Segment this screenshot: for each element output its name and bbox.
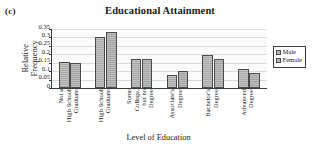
x-category-label-line: Degree <box>213 89 220 108</box>
y-tick-label: 0.25 <box>24 40 50 47</box>
bar-group <box>131 29 153 88</box>
bar-group <box>167 29 189 88</box>
bar-female[interactable] <box>142 59 153 89</box>
bar-male[interactable] <box>238 69 249 88</box>
bar-group <box>238 29 260 88</box>
legend-swatch-icon <box>276 50 281 55</box>
x-category-label-line: Bachelor's <box>205 89 212 117</box>
bar-female[interactable] <box>249 73 260 88</box>
x-category-label: AdvancedDegree <box>230 89 266 133</box>
bar-female[interactable] <box>106 32 117 88</box>
chart-legend: MaleFemale <box>273 46 306 68</box>
chart-figure: (c) Educational Attainment Relative Freq… <box>0 0 324 155</box>
bar-female[interactable] <box>178 71 189 88</box>
bar-male[interactable] <box>95 37 106 88</box>
y-tick-label: 0.3 <box>24 32 50 39</box>
y-tick-label: 0.35 <box>24 23 50 30</box>
x-category-label-line: Degree <box>148 89 155 108</box>
y-tick-label: 0 <box>24 82 50 89</box>
bar-female[interactable] <box>70 63 81 88</box>
x-category-label: High SchoolGraduate <box>87 89 123 133</box>
legend-label: Male <box>283 49 297 56</box>
legend-swatch-icon <box>276 58 281 63</box>
x-category-label: SomeCollege,but noDegree <box>123 89 159 133</box>
bar-male[interactable] <box>167 75 178 88</box>
plot-area <box>51 29 267 89</box>
x-category-label: Not aHigh SchoolGraduate <box>51 89 87 133</box>
y-tick-label: 0.2 <box>24 48 50 55</box>
y-tick-label: 0.05 <box>24 74 50 81</box>
legend-item[interactable]: Female <box>276 57 302 65</box>
bar-male[interactable] <box>59 62 70 88</box>
x-category-label-line: Graduate <box>105 89 112 113</box>
x-category-label-line: Degree <box>177 89 184 108</box>
x-axis-title: Level of Education <box>51 134 266 142</box>
chart-title: Educational Attainment <box>55 5 265 17</box>
x-category-label-line: Degree <box>248 89 255 108</box>
x-category-label-line: Some <box>126 89 133 104</box>
bar-male[interactable] <box>131 59 142 89</box>
bar-female[interactable] <box>214 59 225 89</box>
bar-series-container <box>52 29 267 88</box>
y-tick-label: 0.1 <box>24 65 50 72</box>
panel-letter: (c) <box>5 7 16 16</box>
x-category-label: Associate'sDegree <box>159 89 195 133</box>
y-axis-tick-labels: 00.050.10.150.20.250.30.35 <box>24 26 50 88</box>
bar-group <box>59 29 81 88</box>
x-category-label: Bachelor'sDegree <box>194 89 230 133</box>
x-category-label-line: Graduate <box>73 89 80 113</box>
bar-male[interactable] <box>202 55 213 88</box>
bar-group <box>202 29 224 88</box>
x-category-label-line: Not a <box>58 89 65 104</box>
legend-label: Female <box>283 57 302 64</box>
y-tick-label: 0.15 <box>24 57 50 64</box>
x-axis-category-labels: Not aHigh SchoolGraduateHigh SchoolGradu… <box>51 89 266 133</box>
bar-group <box>95 29 117 88</box>
